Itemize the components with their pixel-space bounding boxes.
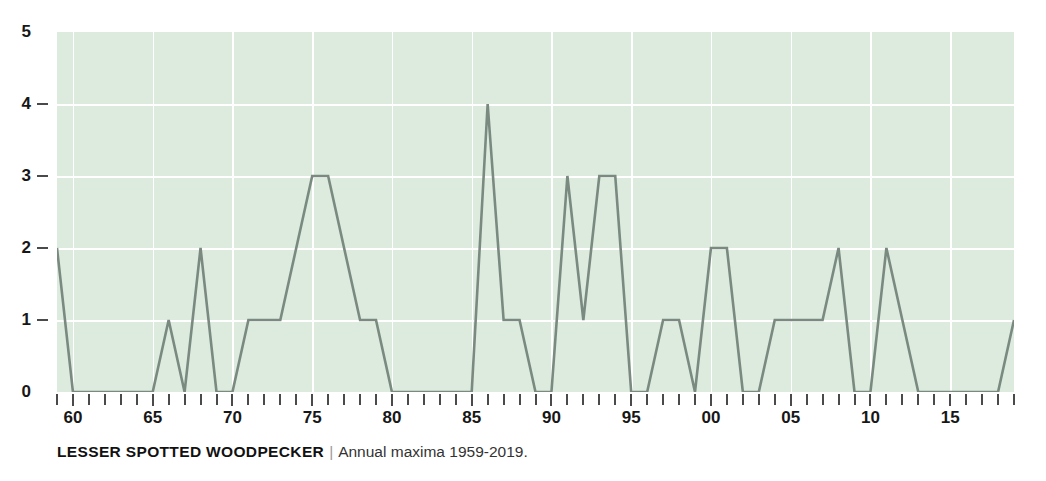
x-tick-label-65: 65 xyxy=(133,408,173,428)
x-tick-1991 xyxy=(566,394,568,405)
plot-area xyxy=(57,32,1014,392)
x-tick-label-00: 00 xyxy=(691,408,731,428)
x-tick-2018 xyxy=(997,394,999,405)
x-tick-label-90: 90 xyxy=(531,408,571,428)
x-tick-1978 xyxy=(359,394,361,405)
x-tick-2017 xyxy=(981,394,983,405)
y-tick-mark-4 xyxy=(37,103,48,105)
x-tick-1972 xyxy=(263,394,265,405)
x-tick-1973 xyxy=(279,394,281,405)
x-tick-2009 xyxy=(854,394,856,405)
caption-separator: | xyxy=(324,443,338,460)
cropped-title-strip xyxy=(0,0,1046,12)
x-tick-2012 xyxy=(901,394,903,405)
x-tick-label-85: 85 xyxy=(452,408,492,428)
x-tick-1999 xyxy=(694,394,696,405)
x-tick-label-10: 10 xyxy=(850,408,890,428)
x-tick-2005 xyxy=(790,394,792,406)
caption-subtitle: Annual maxima 1959-2019. xyxy=(338,443,528,460)
x-tick-1962 xyxy=(104,394,106,405)
x-tick-1961 xyxy=(88,394,90,405)
x-tick-1969 xyxy=(216,394,218,405)
y-tick-mark-2 xyxy=(37,247,48,249)
x-tick-1986 xyxy=(487,394,489,405)
x-axis-labels: 606570758085909500051015 xyxy=(0,408,1046,432)
x-tick-1970 xyxy=(231,394,233,406)
y-tick-label-5: 5 xyxy=(5,22,31,42)
x-tick-label-95: 95 xyxy=(611,408,651,428)
x-tick-2001 xyxy=(726,394,728,405)
x-tick-1995 xyxy=(630,394,632,406)
x-tick-1983 xyxy=(439,394,441,405)
x-tick-2004 xyxy=(774,394,776,405)
x-tick-1989 xyxy=(535,394,537,405)
x-tick-1981 xyxy=(407,394,409,405)
x-tick-1985 xyxy=(471,394,473,406)
x-tick-1964 xyxy=(136,394,138,405)
x-tick-1967 xyxy=(184,394,186,405)
x-tick-1988 xyxy=(519,394,521,405)
x-tick-1996 xyxy=(646,394,648,405)
x-tick-1960 xyxy=(72,394,74,406)
y-tick-label-2: 2 xyxy=(5,238,31,258)
x-tick-1992 xyxy=(582,394,584,405)
x-tick-1979 xyxy=(375,394,377,405)
x-tick-2008 xyxy=(838,394,840,405)
x-tick-1982 xyxy=(423,394,425,405)
x-tick-1971 xyxy=(247,394,249,405)
x-tick-1959 xyxy=(56,394,58,405)
x-tick-2006 xyxy=(806,394,808,405)
x-tick-1975 xyxy=(311,394,313,406)
x-tick-1963 xyxy=(120,394,122,405)
x-tick-1976 xyxy=(327,394,329,405)
woodpecker-chart-figure: 012345 606570758085909500051015 LESSER S… xyxy=(0,0,1046,481)
x-axis-ticks xyxy=(0,394,1046,407)
x-tick-1984 xyxy=(455,394,457,405)
x-tick-1966 xyxy=(168,394,170,405)
x-tick-2000 xyxy=(710,394,712,406)
y-axis-labels: 012345 xyxy=(0,32,31,392)
x-tick-2007 xyxy=(822,394,824,405)
x-tick-1987 xyxy=(503,394,505,405)
x-tick-1968 xyxy=(200,394,202,405)
caption: LESSER SPOTTED WOODPECKER|Annual maxima … xyxy=(57,443,528,461)
x-tick-2019 xyxy=(1013,394,1015,405)
y-tick-label-3: 3 xyxy=(5,166,31,186)
x-tick-2015 xyxy=(949,394,951,406)
x-tick-label-60: 60 xyxy=(53,408,93,428)
x-tick-1980 xyxy=(391,394,393,406)
x-tick-1977 xyxy=(343,394,345,405)
annual-maxima-line xyxy=(57,104,1014,392)
x-tick-1974 xyxy=(295,394,297,405)
y-tick-label-1: 1 xyxy=(5,310,31,330)
caption-species: LESSER SPOTTED WOODPECKER xyxy=(57,443,324,460)
x-tick-label-70: 70 xyxy=(212,408,252,428)
x-tick-2016 xyxy=(965,394,967,405)
data-line-series xyxy=(57,32,1014,392)
x-tick-1994 xyxy=(614,394,616,405)
x-tick-2011 xyxy=(885,394,887,405)
x-tick-label-15: 15 xyxy=(930,408,970,428)
x-tick-2013 xyxy=(917,394,919,405)
x-tick-label-05: 05 xyxy=(771,408,811,428)
y-tick-mark-3 xyxy=(37,175,48,177)
x-tick-2002 xyxy=(742,394,744,405)
y-tick-label-4: 4 xyxy=(5,94,31,114)
x-tick-label-80: 80 xyxy=(372,408,412,428)
x-tick-1998 xyxy=(678,394,680,405)
x-tick-1990 xyxy=(550,394,552,406)
x-tick-1965 xyxy=(152,394,154,406)
x-tick-1993 xyxy=(598,394,600,405)
x-tick-label-75: 75 xyxy=(292,408,332,428)
y-tick-mark-1 xyxy=(37,319,48,321)
x-tick-1997 xyxy=(662,394,664,405)
x-tick-2014 xyxy=(933,394,935,405)
x-tick-2010 xyxy=(869,394,871,406)
x-tick-2003 xyxy=(758,394,760,405)
